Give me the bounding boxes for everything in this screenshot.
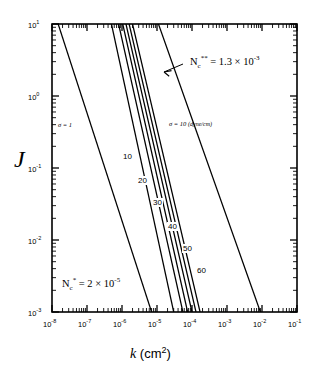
- y-tick--2: 10-2: [28, 235, 41, 246]
- nc-double-star-prefix: N: [190, 56, 198, 67]
- x-tick--1: 10-1: [288, 318, 301, 329]
- annotation-sigma-left: σ = 1: [58, 121, 72, 128]
- nc-star-prefix: N: [62, 278, 70, 289]
- nc-star-exponent: -5: [114, 276, 120, 284]
- curve-label-40: 40: [167, 222, 178, 231]
- annotation-nc-double-star: Nc** = 1.3 × 10-3: [190, 54, 260, 70]
- nc-double-star-exponent: -3: [254, 54, 260, 62]
- x-tick--6: 10-6: [113, 318, 126, 329]
- annotation-sigma-right: σ = 10 (dyne/cm): [169, 120, 212, 127]
- nc-double-star-marks: **: [201, 54, 208, 62]
- y-tick--3: 10-3: [28, 307, 41, 318]
- annotation-nc-star: Nc* = 2 × 10-5: [62, 276, 120, 292]
- curve-label-30: 30: [152, 198, 163, 207]
- nc-double-star-subscript: c: [198, 62, 201, 70]
- curve-label-60: 60: [196, 266, 207, 275]
- curve-label-50: 50: [182, 244, 193, 253]
- x-axis-unit-close: ): [167, 346, 171, 361]
- x-tick--3: 10-3: [218, 318, 231, 329]
- y-tick-0: 100: [28, 91, 39, 102]
- x-tick--2: 10-2: [253, 318, 266, 329]
- sigma-left-equals: =: [61, 121, 69, 128]
- curve-label-10: 10: [122, 152, 133, 161]
- nc-double-star-equals: = 1.3 × 10: [208, 56, 254, 67]
- nc-star-subscript: c: [70, 284, 73, 292]
- x-tick--8: 10-8: [43, 318, 56, 329]
- sigma-right-value: 10: [180, 120, 188, 127]
- sigma-right-unit: (dyne/cm): [188, 121, 212, 127]
- x-tick--7: 10-7: [78, 318, 91, 329]
- x-tick--5: 10-5: [148, 318, 161, 329]
- x-axis-label: k (cm2): [130, 345, 171, 362]
- x-axis-unit-open: (cm: [140, 346, 162, 361]
- curve-label-20: 20: [137, 176, 148, 185]
- y-tick--1: 10-1: [28, 163, 41, 174]
- y-tick-1: 101: [28, 19, 39, 30]
- nc-star-equals: = 2 × 10: [76, 278, 114, 289]
- sigma-right-equals: =: [172, 120, 180, 127]
- sigma-left-value: 1: [69, 121, 72, 128]
- x-tick--4: 10-4: [183, 318, 196, 329]
- figure-log-log-nucleation-plot: J k (cm2) 10-810-710-610-510-410-310-210…: [0, 0, 320, 376]
- y-axis-label: J: [14, 146, 25, 173]
